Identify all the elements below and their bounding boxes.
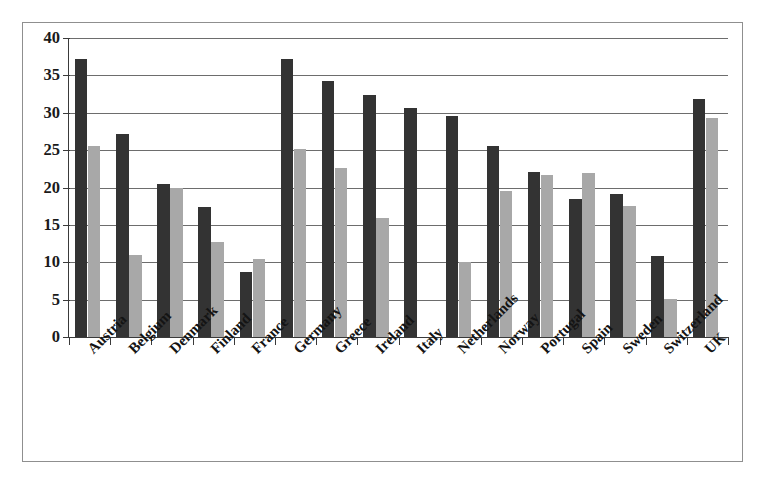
y-axis-tick-label: 30 bbox=[44, 105, 61, 122]
y-axis-tick-label: 15 bbox=[44, 217, 61, 234]
bar-series-2 bbox=[129, 255, 142, 337]
y-axis-tick-label: 10 bbox=[44, 254, 61, 271]
bar-series-1 bbox=[75, 59, 88, 337]
bar-group bbox=[357, 38, 398, 337]
bar-series-2 bbox=[253, 259, 266, 337]
bar-group bbox=[316, 38, 357, 337]
bar-series-2 bbox=[88, 146, 101, 337]
bar-series-2 bbox=[459, 262, 472, 337]
y-axis-tick-label: 35 bbox=[44, 67, 61, 84]
plot-wrapper: 0510152025303540 AustriaBelgiumDenmarkFi… bbox=[0, 0, 764, 482]
bar-series-1 bbox=[363, 95, 376, 337]
bar-group bbox=[110, 38, 151, 337]
bar-group bbox=[646, 38, 687, 337]
bar-group bbox=[522, 38, 563, 337]
bar-group bbox=[193, 38, 234, 337]
x-axis-category-labels: AustriaBelgiumDenmarkFinlandFranceGerman… bbox=[68, 346, 728, 456]
bar-series-2 bbox=[376, 218, 389, 337]
bar-series-layer bbox=[69, 38, 728, 337]
y-axis-tick-label: 0 bbox=[52, 329, 60, 346]
bar-series-1 bbox=[404, 108, 417, 337]
bar-group bbox=[687, 38, 728, 337]
bar-group bbox=[440, 38, 481, 337]
bar-series-1 bbox=[610, 194, 623, 337]
bar-group bbox=[563, 38, 604, 337]
bar-series-2 bbox=[170, 188, 183, 338]
x-axis-tick bbox=[69, 337, 70, 345]
bar-group bbox=[481, 38, 522, 337]
bar-group bbox=[69, 38, 110, 337]
bar-series-1 bbox=[322, 81, 335, 337]
y-axis-tick-label: 20 bbox=[44, 179, 61, 196]
bar-group bbox=[604, 38, 645, 337]
bar-series-1 bbox=[116, 134, 129, 337]
bar-series-2 bbox=[211, 242, 224, 337]
bar-series-1 bbox=[446, 116, 459, 337]
bar-series-2 bbox=[294, 149, 307, 337]
y-axis-tick-label: 5 bbox=[52, 291, 60, 308]
chart-figure: 0510152025303540 AustriaBelgiumDenmarkFi… bbox=[0, 0, 764, 482]
bar-group bbox=[234, 38, 275, 337]
plot-area: 0510152025303540 bbox=[68, 38, 728, 338]
y-axis-tick-label: 25 bbox=[44, 142, 61, 159]
bar-group bbox=[151, 38, 192, 337]
bar-series-1 bbox=[281, 59, 294, 337]
bar-series-2 bbox=[623, 206, 636, 337]
bar-group bbox=[399, 38, 440, 337]
bar-series-2 bbox=[541, 175, 554, 337]
y-axis-tick-label: 40 bbox=[44, 30, 61, 47]
bar-group bbox=[275, 38, 316, 337]
